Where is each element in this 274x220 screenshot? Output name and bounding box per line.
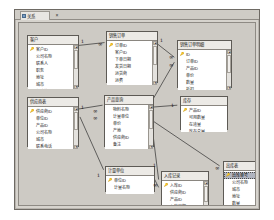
field-row[interactable]: 出库单号	[224, 172, 256, 179]
table-fieldlist-inventory[interactable]: 产品ID可用数量在途量库存总量	[181, 106, 227, 132]
field-list-scrollbar[interactable]: ▲▼	[73, 107, 78, 149]
scroll-up-icon[interactable]: ▲	[204, 181, 208, 185]
field-list-scrollbar[interactable]: ▲▼	[148, 105, 153, 149]
field-row[interactable]: 数量	[178, 79, 231, 86]
field-row[interactable]: 计量名称	[106, 184, 154, 191]
table-box-suppliers[interactable]: 供应商表供应商ID单位ID产品ID公司名称城市联系电话▲▼	[27, 97, 79, 147]
field-row[interactable]: 在途量	[181, 121, 227, 128]
field-row[interactable]: 单价	[105, 120, 153, 127]
field-row[interactable]: 可用数量	[181, 114, 227, 121]
field-list-scrollbar[interactable]: ▲▼	[152, 41, 157, 85]
field-row[interactable]: 下单日期	[107, 56, 157, 63]
table-fieldlist-units[interactable]: 单位ID计量名称	[106, 176, 154, 194]
scroll-up-icon[interactable]: ▲	[74, 45, 78, 49]
scroll-up-icon[interactable]: ▲	[153, 41, 157, 45]
table-box-order_details[interactable]: 销售订单明细ID订单ID产品ID单价数量折扣▲▼	[177, 40, 232, 88]
field-row[interactable]: 城市	[28, 136, 78, 143]
field-row[interactable]: 供应商ID	[162, 189, 208, 196]
field-list-scrollbar[interactable]: ▲▼	[226, 50, 231, 90]
table-fieldlist-orders[interactable]: 订单ID客户ID下单日期发货日期运货商运费▲▼	[107, 41, 157, 85]
field-row[interactable]: 数量	[224, 200, 256, 207]
field-list-scrollbar[interactable]: ▲▼	[73, 45, 78, 89]
field-row[interactable]: 备注	[105, 141, 153, 148]
field-row[interactable]: 订单ID	[178, 58, 231, 65]
field-row[interactable]: 运费	[107, 77, 157, 84]
field-row[interactable]: 发货日期	[107, 63, 157, 70]
table-title-inventory[interactable]: 库存	[181, 97, 227, 106]
field-row[interactable]: 单价	[178, 72, 231, 79]
field-row[interactable]: 产品ID	[162, 196, 208, 203]
table-fieldlist-customers[interactable]: 客户ID公司名称联系人职务地址城市邮政编码▲▼	[28, 45, 78, 89]
field-row[interactable]: 折扣	[178, 86, 231, 91]
field-row[interactable]: 联系人	[28, 60, 78, 67]
table-title-customers[interactable]: 客户	[28, 36, 78, 45]
scrollbar-thumb[interactable]	[74, 112, 78, 130]
field-row[interactable]: 职务	[28, 67, 78, 74]
field-row[interactable]: 计量单位	[105, 113, 153, 120]
table-box-shippers[interactable]: 出库表出库单号公司名称城市地址数量出库日期▲▼	[223, 161, 256, 206]
field-row[interactable]: 产品ID	[181, 107, 227, 114]
field-row[interactable]: 库存总量	[181, 128, 227, 133]
field-row[interactable]: 入库日期	[162, 203, 208, 207]
field-row[interactable]: 地址	[224, 193, 256, 200]
scroll-up-icon[interactable]: ▲	[74, 107, 78, 111]
field-row[interactable]: 产品ID	[28, 122, 78, 129]
field-row[interactable]: 邮政编码	[28, 88, 78, 90]
table-title-order_details[interactable]: 销售订单明细	[178, 41, 231, 50]
table-title-employees[interactable]: 入库记录	[162, 172, 208, 181]
field-list-scrollbar[interactable]: ▲▼	[203, 181, 208, 206]
field-row[interactable]: 供应商ID	[28, 108, 78, 115]
close-icon[interactable]: ×	[53, 11, 61, 20]
field-row[interactable]: 城市	[28, 81, 78, 88]
tab-relationships[interactable]: 关系	[20, 11, 50, 20]
field-row[interactable]: 单位ID	[106, 177, 154, 184]
field-row[interactable]: 地址	[28, 74, 78, 81]
scroll-down-icon[interactable]: ▼	[74, 145, 78, 149]
table-box-orders[interactable]: 销售订单订单ID客户ID下单日期发货日期运货商运费▲▼	[106, 31, 158, 83]
field-row[interactable]: 联系电话	[28, 143, 78, 150]
field-row[interactable]: 入库ID	[162, 182, 208, 189]
field-row[interactable]: 客户ID	[107, 49, 157, 56]
scroll-down-icon[interactable]: ▼	[227, 86, 231, 90]
field-row[interactable]: 订单ID	[107, 42, 157, 49]
field-row[interactable]: ID	[178, 51, 231, 58]
field-row[interactable]: 公司名称	[224, 179, 256, 186]
scrollbar-thumb[interactable]	[227, 55, 231, 73]
scroll-up-icon[interactable]: ▲	[227, 50, 231, 54]
field-row[interactable]: 单位ID	[28, 115, 78, 122]
scroll-down-icon[interactable]: ▼	[149, 145, 153, 149]
table-box-units[interactable]: 计量单位单位ID计量名称	[105, 166, 155, 192]
table-fieldlist-order_details[interactable]: ID订单ID产品ID单价数量折扣▲▼	[178, 50, 231, 90]
scroll-down-icon[interactable]: ▼	[74, 85, 78, 89]
field-row[interactable]: 公司名称	[28, 129, 78, 136]
field-row[interactable]: 运货商	[107, 70, 157, 77]
table-box-employees[interactable]: 入库记录入库ID供应商ID产品ID入库日期数量入库批号▲▼	[161, 171, 209, 206]
relationships-canvas[interactable]: 1 ∞ 1 ∞ ∞ 1 1 ∞ ∞ 1 ∞ 1 ∞ 客户客户ID公司名称联系人职…	[18, 22, 256, 206]
scrollbar-thumb[interactable]	[204, 186, 208, 202]
field-row[interactable]: 物料名称	[105, 106, 153, 113]
field-row[interactable]: 公司名称	[28, 53, 78, 60]
table-title-units[interactable]: 计量单位	[106, 167, 154, 176]
field-row[interactable]: 城市	[224, 186, 256, 193]
field-row[interactable]: 客户ID	[28, 46, 78, 53]
scrollbar-thumb[interactable]	[153, 46, 157, 65]
cardinality-one-suppliers: 1	[81, 105, 84, 110]
table-fieldlist-products[interactable]: 物料名称计量单位单价产地供应商ID备注▲▼	[105, 105, 153, 149]
table-box-customers[interactable]: 客户客户ID公司名称联系人职务地址城市邮政编码▲▼	[27, 35, 79, 87]
table-title-shippers[interactable]: 出库表	[224, 162, 256, 171]
table-title-products[interactable]: 产品查询	[105, 96, 153, 105]
scroll-up-icon[interactable]: ▲	[149, 105, 153, 109]
table-title-orders[interactable]: 销售订单	[107, 32, 157, 41]
field-row[interactable]: 产品ID	[178, 65, 231, 72]
table-title-suppliers[interactable]: 供应商表	[28, 98, 78, 107]
scrollbar-thumb[interactable]	[149, 110, 153, 129]
table-box-inventory[interactable]: 库存产品ID可用数量在途量库存总量	[180, 96, 228, 130]
table-fieldlist-employees[interactable]: 入库ID供应商ID产品ID入库日期数量入库批号▲▼	[162, 181, 208, 206]
table-fieldlist-shippers[interactable]: 出库单号公司名称城市地址数量出库日期▲▼	[224, 171, 256, 206]
scroll-down-icon[interactable]: ▼	[153, 81, 157, 85]
field-row[interactable]: 供应商ID	[105, 134, 153, 141]
table-box-products[interactable]: 产品查询物料名称计量单位单价产地供应商ID备注▲▼	[104, 95, 154, 147]
field-row[interactable]: 产地	[105, 127, 153, 134]
scrollbar-thumb[interactable]	[74, 50, 78, 69]
table-fieldlist-suppliers[interactable]: 供应商ID单位ID产品ID公司名称城市联系电话▲▼	[28, 107, 78, 149]
